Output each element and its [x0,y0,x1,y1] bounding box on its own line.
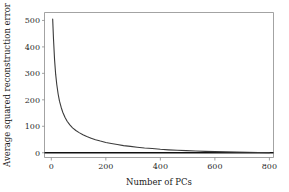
figure-container: 01002003004005000200400600800Number of P… [0,0,289,192]
x-tick-label-600: 600 [207,162,222,171]
y-tick-label-100: 100 [25,122,40,131]
x-tick-label-400: 400 [153,162,168,171]
x-tick-label-800: 800 [262,162,277,171]
y-tick-label-200: 200 [25,96,40,105]
x-tick-label-200: 200 [98,162,113,171]
y-tick-label-400: 400 [25,43,40,52]
data-series-0 [53,19,270,152]
y-tick-label-300: 300 [25,69,40,78]
plot-frame [45,13,274,158]
y-tick-label-500: 500 [25,16,40,25]
reconstruction-error-chart: 01002003004005000200400600800Number of P… [0,0,289,192]
y-tick-label-0: 0 [35,149,40,158]
x-axis-title: Number of PCs [126,177,192,187]
x-tick-label-0: 0 [49,162,54,171]
y-axis-title: Average squared reconstruction error [2,2,12,168]
